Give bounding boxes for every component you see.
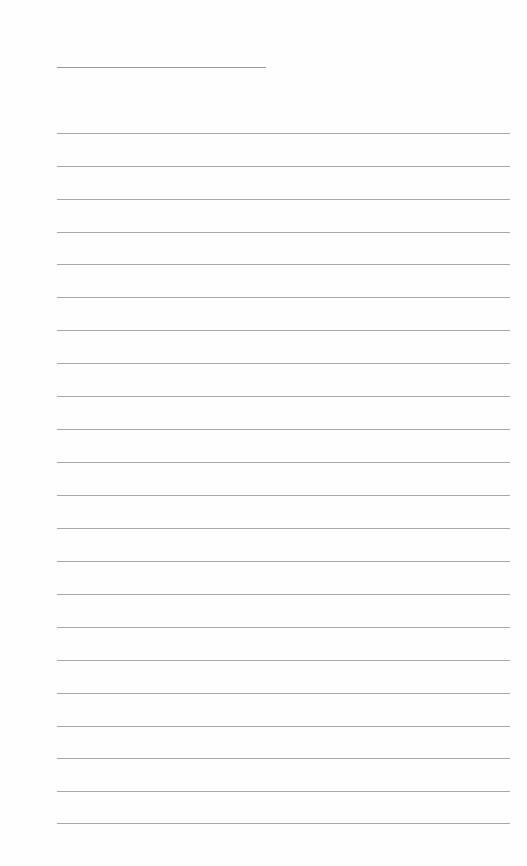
ruled-line	[57, 791, 510, 792]
ruled-line	[57, 660, 510, 661]
ruled-line	[57, 495, 510, 496]
ruled-line	[57, 199, 510, 200]
ruled-line	[57, 693, 510, 694]
ruled-line	[57, 594, 510, 595]
ruled-line	[57, 396, 510, 397]
ruled-line	[57, 363, 510, 364]
ruled-line	[57, 330, 510, 331]
notepaper-page	[0, 0, 527, 866]
ruled-line	[57, 297, 510, 298]
ruled-line	[57, 462, 510, 463]
ruled-line	[57, 166, 510, 167]
ruled-line	[57, 726, 510, 727]
title-line	[57, 67, 266, 68]
ruled-line	[57, 561, 510, 562]
ruled-line	[57, 823, 510, 824]
ruled-line	[57, 133, 510, 134]
ruled-line	[57, 232, 510, 233]
ruled-line	[57, 429, 510, 430]
ruled-line	[57, 758, 510, 759]
ruled-line	[57, 627, 510, 628]
ruled-line	[57, 528, 510, 529]
ruled-line	[57, 264, 510, 265]
